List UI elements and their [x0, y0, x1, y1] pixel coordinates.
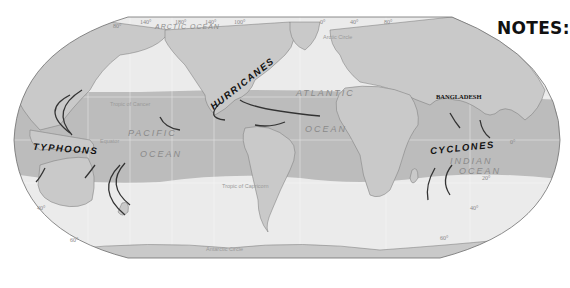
land-antarctica — [60, 240, 500, 288]
arctic-ocean-label: ARCTIC OCEAN — [155, 23, 220, 30]
svg-text:0°: 0° — [320, 19, 326, 25]
svg-text:40°: 40° — [470, 205, 479, 211]
indian-label-2: OCEAN — [459, 166, 501, 176]
land-australia — [38, 157, 94, 206]
notes-heading: NOTES: — [497, 18, 570, 38]
atlantic-label-2: OCEAN — [305, 124, 347, 134]
svg-text:60°: 60° — [440, 235, 449, 241]
svg-text:140°: 140° — [140, 19, 152, 25]
atlantic-label-1: ATLANTIC — [296, 88, 355, 98]
svg-text:60°: 60° — [70, 237, 79, 243]
antarctic-circle-label: Antarctic Circle — [206, 246, 243, 252]
tropic-of-cancer-label: Tropic of Cancer — [110, 101, 150, 107]
svg-text:80°: 80° — [113, 23, 122, 29]
svg-text:40°: 40° — [350, 19, 359, 25]
equator-label: Equator — [100, 138, 119, 144]
bangladesh-label: BANGLADESH — [436, 93, 482, 100]
pacific-label-2: OCEAN — [140, 149, 182, 159]
tropic-of-capricorn-label: Tropic of Capricorn — [222, 183, 269, 189]
pacific-label-1: PACIFIC — [128, 128, 177, 138]
svg-text:0°: 0° — [510, 139, 516, 145]
indian-label-1: INDIAN — [450, 156, 493, 166]
svg-text:80°: 80° — [384, 19, 393, 25]
svg-text:100°: 100° — [234, 19, 246, 25]
svg-text:40°: 40° — [37, 205, 46, 211]
arctic-circle-label: Arctic Circle — [323, 34, 352, 40]
